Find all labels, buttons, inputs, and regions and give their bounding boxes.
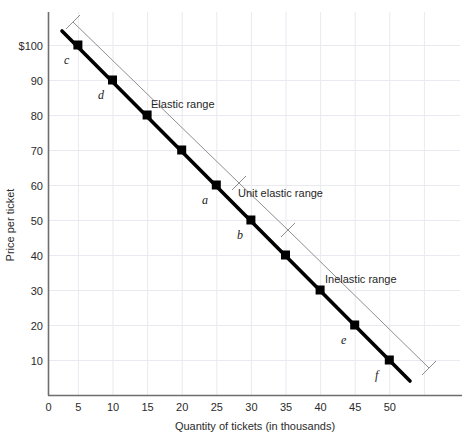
data-point-b (246, 216, 255, 225)
data-point-20-70 (177, 146, 186, 155)
point-label-a: a (202, 193, 208, 207)
y-tick-70: 70 (31, 145, 43, 157)
point-id-labels: c d a b e f (64, 53, 380, 382)
y-tick-80: 80 (31, 110, 43, 122)
axis-lines (48, 12, 462, 396)
y-tick-60: 60 (31, 180, 43, 192)
y-tick-50: 50 (31, 215, 43, 227)
inelastic-bracket-line (288, 230, 429, 368)
annotation-elastic-range: Elastic range (151, 98, 215, 110)
x-tick-30: 30 (245, 401, 257, 413)
x-tick-5: 5 (75, 401, 81, 413)
point-label-d: d (98, 88, 105, 102)
data-point-a (212, 181, 221, 190)
demand-curve-chart: $100 90 80 70 60 50 40 30 20 10 0 5 10 1… (0, 0, 467, 443)
y-axis-title: Price per ticket (4, 189, 16, 262)
x-tick-45: 45 (349, 401, 361, 413)
x-tick-labels: 0 5 10 15 20 25 30 35 40 45 50 (45, 401, 395, 413)
y-tick-100: $100 (19, 40, 43, 52)
x-tick-35: 35 (280, 401, 292, 413)
y-tick-20: 20 (31, 320, 43, 332)
x-axis-title: Quantity of tickets (in thousands) (175, 420, 335, 432)
y-tick-40: 40 (31, 250, 43, 262)
x-tick-10: 10 (107, 401, 119, 413)
point-label-c: c (64, 53, 70, 67)
data-point-f (385, 356, 394, 365)
point-label-b: b (237, 228, 243, 242)
x-tick-15: 15 (141, 401, 153, 413)
data-point-e (350, 321, 359, 330)
x-tick-50: 50 (384, 401, 396, 413)
x-tick-20: 20 (176, 401, 188, 413)
data-point-35-40 (281, 251, 290, 260)
data-point-40-30 (316, 286, 325, 295)
data-point-d (108, 76, 117, 85)
chart-canvas: $100 90 80 70 60 50 40 30 20 10 0 5 10 1… (0, 0, 467, 443)
range-annotations: Elastic range Unit elastic range Inelast… (151, 98, 397, 285)
y-tick-30: 30 (31, 285, 43, 297)
annotation-inelastic-range: Inelastic range (325, 273, 397, 285)
y-tick-90: 90 (31, 75, 43, 87)
y-tick-10: 10 (31, 355, 43, 367)
point-label-f: f (375, 368, 380, 382)
x-tick-40: 40 (314, 401, 326, 413)
data-point-15-80 (143, 111, 152, 120)
y-tick-labels: $100 90 80 70 60 50 40 30 20 10 (19, 40, 43, 367)
x-tick-0: 0 (45, 401, 51, 413)
x-tick-25: 25 (211, 401, 223, 413)
data-point-c (73, 41, 82, 50)
point-label-e: e (341, 333, 347, 347)
annotation-unit-elastic-range: Unit elastic range (238, 187, 323, 199)
